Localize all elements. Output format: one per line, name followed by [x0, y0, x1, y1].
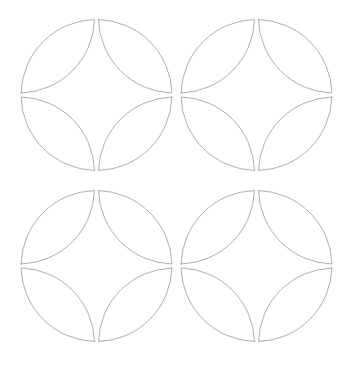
- background-rect: [0, 0, 363, 366]
- pattern-canvas: [0, 0, 363, 366]
- pattern-svg: [0, 0, 363, 366]
